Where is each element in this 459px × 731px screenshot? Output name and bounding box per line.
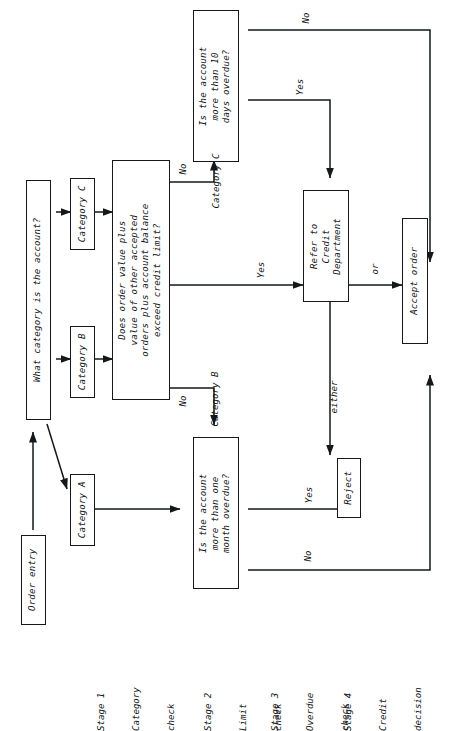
- node-reject-label: Reject: [343, 471, 355, 505]
- node-overdue-days-label: Is the account more than 10 days overdue…: [199, 46, 234, 125]
- stage-label-3-line2: Overdue: [305, 635, 317, 731]
- node-reject[interactable]: Reject: [337, 458, 361, 518]
- stage-label-3: Stage 3 Overdue check: [246, 635, 286, 731]
- node-category-c[interactable]: Category C: [70, 178, 95, 250]
- node-category-c-label: Category C: [77, 186, 89, 243]
- stage-label-1-line3: check: [166, 635, 178, 731]
- node-limit-check[interactable]: Does order value plus value of other acc…: [112, 160, 170, 400]
- node-overdue-days-check[interactable]: Is the account more than 10 days overdue…: [193, 10, 239, 162]
- node-category-b-label: Category B: [77, 334, 89, 391]
- stage-label-4-line2: Credit: [378, 635, 390, 731]
- node-what-category[interactable]: What category is the account?: [26, 180, 51, 420]
- node-overdue-month-label: Is the account more than one month overd…: [199, 473, 234, 552]
- edge-label-category-b: Category B: [210, 367, 222, 431]
- edge-label-limit-no-c: No: [178, 158, 190, 180]
- edge-label-days-no: No: [301, 6, 313, 30]
- stage-label-2: Stage 2 Limit check: [179, 635, 219, 731]
- node-overdue-month-check[interactable]: Is the account more than one month overd…: [193, 437, 239, 589]
- stage-label-4-line3: decision: [413, 635, 425, 731]
- stage-label-1-line1: Stage 1: [96, 635, 108, 731]
- node-category-a[interactable]: Category A: [70, 474, 95, 546]
- edge-label-limit-yes: Yes: [256, 257, 268, 283]
- node-category-b[interactable]: Category B: [70, 326, 95, 398]
- node-refer-credit-department[interactable]: Refer to Credit Department: [303, 190, 349, 302]
- stage-label-2-line1: Stage 2: [203, 635, 215, 731]
- node-accept-order[interactable]: Accept order: [402, 218, 428, 344]
- node-order-entry-label: Order entry: [28, 549, 40, 611]
- edge-label-month-no: No: [303, 544, 315, 568]
- node-limit-check-label: Does order value plus value of other acc…: [118, 203, 164, 356]
- stage-label-1-line2: Category: [131, 635, 143, 731]
- stage-label-4-line1: Stage 4: [343, 635, 355, 731]
- stage-label-1: Stage 1 Category check: [72, 635, 112, 731]
- edge-label-either: either: [329, 379, 341, 415]
- node-order-entry[interactable]: Order entry: [21, 535, 46, 625]
- node-what-category-label: What category is the account?: [33, 218, 45, 383]
- edge-label-limit-no-b: No: [178, 390, 190, 412]
- edge-label-month-yes: Yes: [304, 482, 316, 508]
- edge-label-category-c: Category C: [211, 149, 223, 213]
- stage-label-3-line1: Stage 3: [270, 635, 282, 731]
- stage-label-4: Stage 4 Credit decision: [319, 635, 359, 731]
- node-refer-credit-label: Refer to Credit Department: [309, 218, 344, 275]
- edge-label-or: or: [370, 260, 382, 278]
- node-category-a-label: Category A: [77, 482, 89, 539]
- node-accept-order-label: Accept order: [409, 247, 421, 315]
- edge-label-days-yes: Yes: [295, 74, 307, 100]
